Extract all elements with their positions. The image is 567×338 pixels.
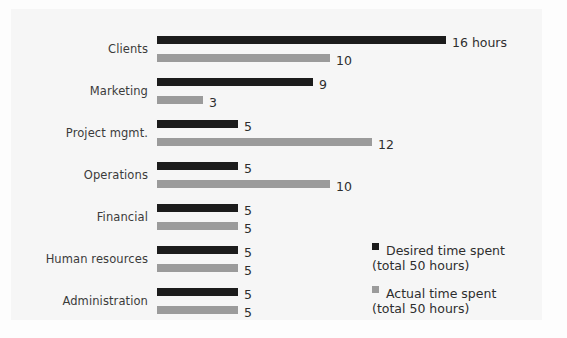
bar-actual [157, 180, 330, 188]
bar-value-actual: 3 [209, 97, 217, 110]
legend-item-desired-text: Desired time spent (total 50 hours) [372, 243, 552, 274]
bar-desired [157, 162, 238, 170]
legend-desired-line2: (total 50 hours) [372, 259, 552, 274]
bar-value-desired: 16 hours [452, 37, 507, 50]
category-label: Operations [0, 170, 148, 182]
desired-legend-swatch-icon [372, 243, 379, 250]
bar-value-actual: 12 [378, 139, 394, 152]
bar-desired [157, 78, 313, 86]
bar-value-desired: 5 [244, 121, 252, 134]
bar-desired [157, 120, 238, 128]
actual-legend-swatch-icon [372, 286, 379, 293]
legend-item-desired: Desired time spent (total 50 hours) [372, 240, 552, 274]
bar-value-actual: 5 [244, 265, 252, 278]
category-label: Human resources [0, 254, 148, 266]
bar-desired [157, 204, 238, 212]
bar-value-actual: 5 [244, 307, 252, 320]
legend-item-actual: Actual time spent (total 50 hours) [372, 283, 552, 317]
chart-legend: Desired time spent (total 50 hours) Actu… [372, 240, 552, 325]
bar-value-actual: 10 [336, 181, 352, 194]
category-label: Financial [0, 212, 148, 224]
category-label: Clients [0, 44, 148, 56]
bar-actual [157, 138, 372, 146]
bar-desired [157, 36, 446, 44]
legend-item-actual-text: Actual time spent (total 50 hours) [372, 286, 552, 317]
chart-screenshot: Clients 16 hours 10 Marketing 9 3 Projec… [0, 0, 567, 338]
category-label: Marketing [0, 86, 148, 98]
bar-value-desired: 5 [244, 289, 252, 302]
bar-actual [157, 264, 238, 272]
bar-value-desired: 9 [319, 79, 327, 92]
bar-value-desired: 5 [244, 247, 252, 260]
bar-desired [157, 246, 238, 254]
legend-desired-line1: Desired time spent [386, 243, 505, 258]
bar-value-actual: 10 [336, 55, 352, 68]
category-label: Administration [0, 296, 148, 308]
bar-chart-plot-area: Clients 16 hours 10 Marketing 9 3 Projec… [0, 0, 567, 338]
bar-value-desired: 5 [244, 205, 252, 218]
bar-actual [157, 96, 203, 104]
bar-value-actual: 5 [244, 223, 252, 236]
category-label: Project mgmt. [0, 128, 148, 140]
legend-actual-line1: Actual time spent [386, 286, 496, 301]
bar-value-desired: 5 [244, 163, 252, 176]
bar-actual [157, 306, 238, 314]
legend-actual-line2: (total 50 hours) [372, 302, 552, 317]
bar-desired [157, 288, 238, 296]
bar-actual [157, 222, 238, 230]
bar-actual [157, 54, 330, 62]
